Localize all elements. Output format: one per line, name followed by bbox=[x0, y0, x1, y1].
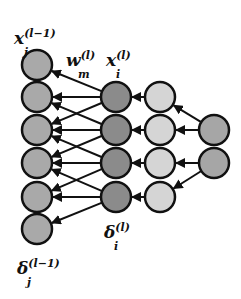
edge-last-to-next bbox=[174, 105, 202, 122]
prev-layer-node bbox=[22, 115, 52, 145]
current-layer-node bbox=[101, 115, 131, 145]
edge-current-to-prev bbox=[52, 203, 102, 223]
label-delta-prev: δ(l−1) j bbox=[17, 258, 60, 296]
label-weight: w(l) m bbox=[66, 50, 95, 88]
current-layer-node bbox=[101, 148, 131, 178]
next-layer-node bbox=[145, 115, 175, 145]
label-delta-current: δ(l) i bbox=[104, 222, 130, 260]
prev-layer-node bbox=[22, 214, 52, 244]
edge-last-to-next bbox=[174, 171, 202, 188]
next-layer-node bbox=[145, 182, 175, 212]
last-layer-node bbox=[199, 115, 229, 145]
next-layer-node bbox=[145, 148, 175, 178]
label-x-prev: x(l−1) j bbox=[14, 28, 56, 66]
label-x-current: x(l) i bbox=[106, 50, 131, 88]
prev-layer-node bbox=[22, 148, 52, 178]
prev-layer-node bbox=[22, 82, 52, 112]
current-layer-node bbox=[101, 182, 131, 212]
last-layer-node bbox=[199, 148, 229, 178]
next-layer-node bbox=[145, 82, 175, 112]
prev-layer-node bbox=[22, 182, 52, 212]
